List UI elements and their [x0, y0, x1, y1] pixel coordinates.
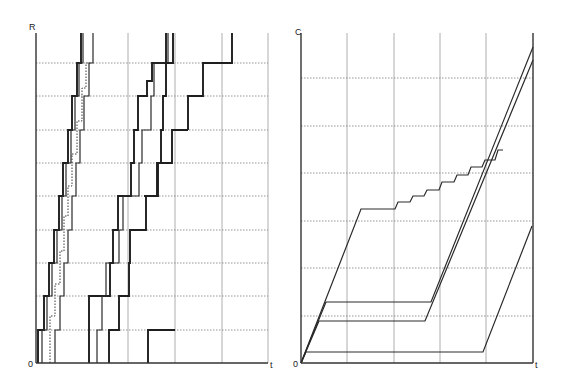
- right-series-ramp-staircase: [301, 150, 503, 363]
- left-series-cluster2: [89, 33, 173, 363]
- right-chart: [301, 33, 533, 363]
- left-x-axis-label: t: [270, 360, 273, 370]
- right-series-plateau-low: [301, 226, 532, 363]
- right-horizontal-grid: [301, 78, 533, 316]
- left-y-axis-label: R: [29, 22, 36, 32]
- right-vertical-grid: [347, 33, 486, 363]
- left-vertical-grid: [128, 33, 268, 363]
- figure: [0, 0, 563, 389]
- right-series-plateau-mid: [301, 60, 533, 363]
- left-series-slow: [144, 33, 232, 363]
- right-y-axis-label: C: [295, 27, 302, 37]
- left-series-cluster1: [38, 33, 93, 363]
- left-origin-label: 0: [28, 359, 33, 369]
- left-chart: [36, 33, 268, 363]
- right-origin-label: 0: [293, 359, 298, 369]
- right-x-axis-label: t: [535, 360, 538, 370]
- right-series-plateau-high: [301, 47, 533, 363]
